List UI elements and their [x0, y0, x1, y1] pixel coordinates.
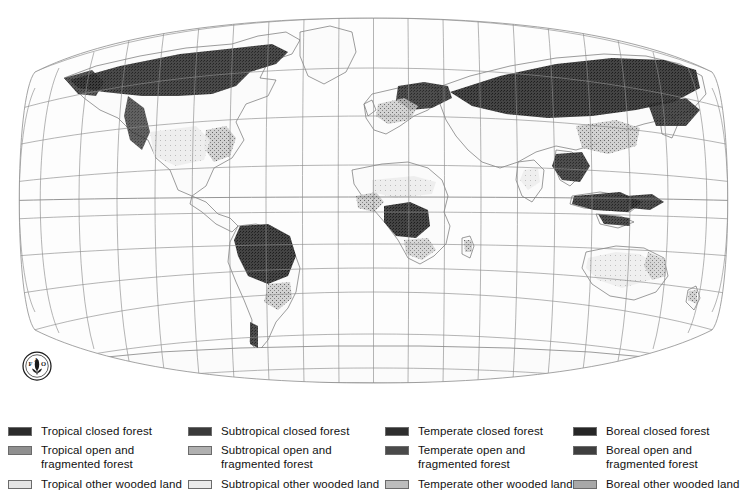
- svg-text:F: F: [29, 360, 33, 367]
- legend-item[interactable]: Tropical open and fragmented forest: [8, 443, 188, 474]
- legend-item[interactable]: Subtropical other wooded land: [188, 477, 385, 493]
- map-body: [0, 0, 747, 400]
- legend-column-boreal: Boreal closed forest Boreal open and fra…: [573, 424, 747, 496]
- legend-label: Subtropical closed forest: [221, 424, 349, 438]
- map-legend: Tropical closed forest Tropical open and…: [0, 424, 747, 504]
- world-map-figure: F A O: [0, 0, 747, 400]
- svg-text:A: A: [34, 357, 38, 363]
- legend-label: Tropical closed forest: [41, 424, 152, 438]
- legend-column-subtropical: Subtropical closed forest Subtropical op…: [188, 424, 385, 496]
- legend-item[interactable]: Subtropical open and fragmented forest: [188, 443, 385, 474]
- legend-swatch-subtropical-other-wooded-land: [188, 480, 212, 489]
- legend-swatch-temperate-closed-forest: [385, 427, 409, 436]
- legend-label: Temperate closed forest: [418, 424, 543, 438]
- legend-label: Tropical open and fragmented forest: [41, 443, 134, 471]
- legend-swatch-temperate-other-wooded-land: [385, 480, 409, 489]
- legend-swatch-subtropical-open-fragmented-forest: [188, 446, 212, 455]
- legend-swatch-tropical-closed-forest: [8, 427, 32, 436]
- legend-swatch-boreal-closed-forest: [573, 427, 597, 436]
- legend-label: Temperate open and fragmented forest: [418, 443, 525, 471]
- legend-item[interactable]: Boreal open and fragmented forest: [573, 443, 747, 474]
- legend-swatch-boreal-open-fragmented-forest: [573, 446, 597, 455]
- legend-label: Tropical other wooded land: [41, 477, 182, 491]
- legend-item[interactable]: Temperate open and fragmented forest: [385, 443, 573, 474]
- legend-label: Boreal closed forest: [606, 424, 710, 438]
- legend-column-temperate: Temperate closed forest Temperate open a…: [385, 424, 573, 496]
- legend-item[interactable]: Boreal other wooded land: [573, 477, 747, 493]
- legend-item[interactable]: Boreal closed forest: [573, 424, 747, 440]
- legend-label: Subtropical open and fragmented forest: [221, 443, 332, 471]
- svg-text:O: O: [41, 360, 46, 367]
- legend-label: Boreal other wooded land: [606, 477, 739, 491]
- legend-item[interactable]: Tropical closed forest: [8, 424, 188, 440]
- legend-item[interactable]: Tropical other wooded land: [8, 477, 188, 493]
- legend-item[interactable]: Subtropical closed forest: [188, 424, 385, 440]
- legend-swatch-boreal-other-wooded-land: [573, 480, 597, 489]
- legend-swatch-tropical-open-fragmented-forest: [8, 446, 32, 455]
- legend-item[interactable]: Temperate closed forest: [385, 424, 573, 440]
- fao-logo-icon: F A O: [22, 351, 52, 381]
- legend-swatch-subtropical-closed-forest: [188, 427, 212, 436]
- legend-column-tropical: Tropical closed forest Tropical open and…: [8, 424, 188, 496]
- legend-swatch-tropical-other-wooded-land: [8, 480, 32, 489]
- legend-label: Boreal open and fragmented forest: [606, 443, 698, 471]
- legend-label: Temperate other wooded land: [418, 477, 573, 491]
- world-map-canvas: [0, 0, 747, 400]
- legend-label: Subtropical other wooded land: [221, 477, 379, 491]
- legend-item[interactable]: Temperate other wooded land: [385, 477, 573, 493]
- legend-swatch-temperate-open-fragmented-forest: [385, 446, 409, 455]
